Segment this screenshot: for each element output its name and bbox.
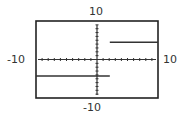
x-min-label: -10 (7, 54, 25, 65)
x-max-label: 10 (163, 54, 177, 65)
y-min-label: -10 (83, 102, 101, 113)
y-max-label: 10 (89, 6, 103, 17)
